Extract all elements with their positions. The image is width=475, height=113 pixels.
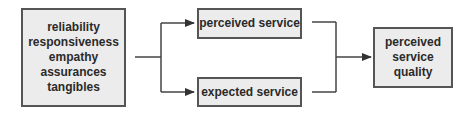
quality-line-2: service [385,50,441,65]
dimension-tangibles: tangibles [28,80,119,95]
quality-line-3: quality [385,65,441,80]
dimension-responsiveness: responsiveness [28,35,119,50]
dimensions-box: reliability responsiveness empathy assur… [21,8,126,107]
expected-service-label: expected service [201,85,298,100]
perceived-service-label: perceived service [199,16,300,31]
dimension-reliability: reliability [28,20,119,35]
dimension-empathy: empathy [28,50,119,65]
quality-line-1: perceived [385,35,441,50]
expected-service-box: expected service [197,77,302,107]
perceived-service-quality-box: perceived service quality [373,27,453,88]
dimension-assurances: assurances [28,65,119,80]
perceived-service-box: perceived service [197,8,302,39]
